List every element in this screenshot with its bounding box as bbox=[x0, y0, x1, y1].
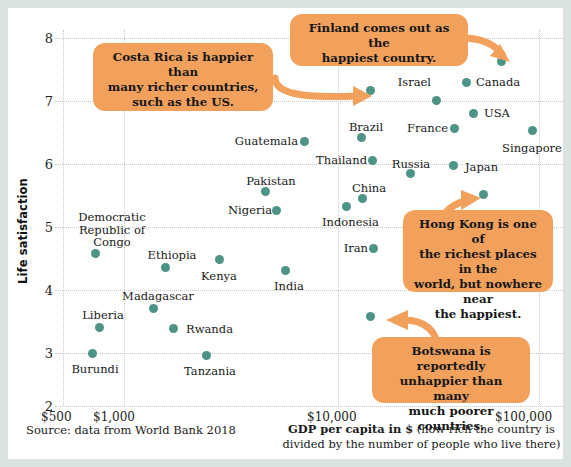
point-kenya bbox=[215, 255, 224, 264]
label-canada: Canada bbox=[476, 76, 520, 89]
point-ethiopia bbox=[161, 263, 170, 272]
callout-costa-rica: Costa Rica is happier than many richer c… bbox=[93, 43, 273, 111]
arrow-costa-rica bbox=[273, 74, 378, 104]
label-iran: Iran bbox=[328, 242, 368, 255]
point-israel bbox=[432, 96, 441, 105]
point-india bbox=[281, 266, 290, 275]
label-liberia: Liberia bbox=[73, 309, 133, 322]
point-iran bbox=[369, 244, 378, 253]
callout-botswana: Botswana is reportedly unhappier than ma… bbox=[372, 337, 530, 403]
label-israel: Israel bbox=[371, 76, 431, 89]
callout-finland: Finland comes out as the happiest countr… bbox=[290, 14, 468, 66]
source-note: Source: data from World Bank 2018 bbox=[26, 423, 236, 437]
point-nigeria bbox=[272, 206, 281, 215]
y-tick-8: 8 bbox=[13, 31, 53, 46]
x-axis-title-bold: GDP per capita in $ bbox=[288, 422, 413, 436]
point-hong-kong bbox=[479, 190, 488, 199]
y-tick-3: 3 bbox=[13, 346, 53, 361]
callout-hong-kong: Hong Kong is one of the richest places i… bbox=[403, 210, 553, 292]
label-rwanda: Rwanda bbox=[186, 323, 233, 336]
point-burundi bbox=[88, 349, 97, 358]
label-russia: Russia bbox=[382, 158, 440, 171]
x-tick-500: $500 bbox=[41, 410, 72, 424]
point-indonesia bbox=[342, 202, 351, 211]
label-burundi: Burundi bbox=[65, 363, 125, 376]
point-france bbox=[450, 124, 459, 133]
point-liberia bbox=[95, 323, 104, 332]
label-usa: USA bbox=[484, 107, 510, 120]
chart-sheet: Life satisfaction 8 7 6 5 4 3 2 bbox=[8, 8, 563, 459]
label-kenya: Kenya bbox=[192, 270, 246, 283]
point-canada bbox=[462, 78, 471, 87]
label-thailand: Thailand bbox=[303, 154, 367, 167]
point-tanzania bbox=[202, 351, 211, 360]
chart-page: Life satisfaction 8 7 6 5 4 3 2 bbox=[0, 0, 571, 467]
label-indonesia: Indonesia bbox=[322, 216, 379, 229]
y-tick-7: 7 bbox=[13, 94, 53, 109]
y-tick-4: 4 bbox=[13, 283, 53, 298]
point-botswana bbox=[366, 312, 375, 321]
label-singapore: Singapore bbox=[501, 142, 563, 155]
label-china: China bbox=[343, 182, 395, 195]
label-guatemala: Guatemala bbox=[218, 135, 298, 148]
gridline-x-500 bbox=[63, 30, 64, 406]
label-japan: Japan bbox=[465, 161, 498, 174]
label-ethiopia: Ethiopia bbox=[139, 249, 205, 262]
y-tick-6: 6 bbox=[13, 157, 53, 172]
label-brazil: Brazil bbox=[336, 121, 396, 134]
label-madagascar: Madagascar bbox=[116, 290, 200, 303]
point-congo bbox=[91, 249, 100, 258]
point-japan bbox=[449, 161, 458, 170]
point-thailand bbox=[368, 156, 377, 165]
point-usa bbox=[469, 109, 478, 118]
point-madagascar bbox=[149, 304, 158, 313]
label-pakistan: Pakistan bbox=[240, 175, 302, 188]
x-tick-1000: $1,000 bbox=[93, 410, 135, 424]
label-congo: Democratic Republic of Congo bbox=[67, 211, 157, 249]
point-singapore bbox=[528, 126, 537, 135]
point-finland bbox=[497, 57, 506, 66]
arrow-finland bbox=[460, 34, 520, 70]
point-guatemala bbox=[300, 137, 309, 146]
label-nigeria: Nigeria bbox=[210, 204, 272, 217]
label-india: India bbox=[263, 280, 315, 293]
point-rwanda bbox=[169, 324, 178, 333]
x-axis-title: GDP per capita in $ (how rich the countr… bbox=[280, 422, 563, 452]
y-tick-5: 5 bbox=[13, 220, 53, 235]
label-tanzania: Tanzania bbox=[176, 365, 244, 378]
